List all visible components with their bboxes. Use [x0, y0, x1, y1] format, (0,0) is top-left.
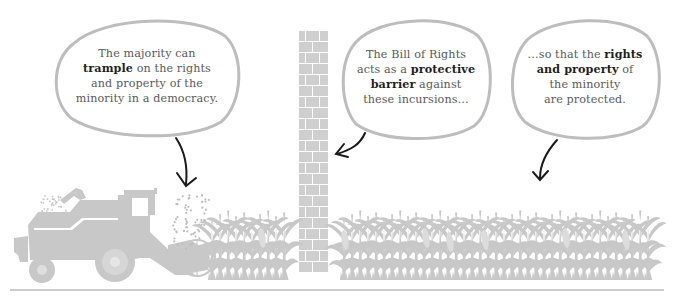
- brick-wall-icon: [299, 31, 328, 272]
- hand-drawn-arrow-icon: [176, 138, 196, 186]
- bubble-text-segment: The Bill of Rights: [366, 48, 466, 61]
- bubble-text-segment: are protected.: [544, 93, 626, 106]
- speech-bubble-protected: …so that the rightsand property ofthe mi…: [509, 14, 661, 140]
- speech-bubble-majority: The majority cantrample on the rightsand…: [53, 14, 241, 138]
- emphasis-text: rights: [604, 47, 642, 61]
- combine-harvester-icon: [14, 188, 215, 283]
- emphasis-text: and property: [537, 62, 619, 76]
- bubble-text-segment: of: [619, 63, 634, 76]
- speech-bubble-bill-of-rights: The Bill of Rightsacts as a protectiveba…: [340, 14, 492, 140]
- bubble-text-segment: these incursions…: [363, 93, 469, 106]
- bubble-text-protected: …so that the rightsand property ofthe mi…: [528, 47, 643, 107]
- bubble-text-segment: on the rights: [133, 62, 211, 75]
- bubble-text-segment: minority in a democracy.: [76, 92, 218, 105]
- corn-field-right: [324, 211, 667, 280]
- bubble-text-segment: The majority can: [98, 47, 195, 60]
- emphasis-text: barrier: [371, 77, 416, 91]
- bubble-text-segment: and property of the: [91, 77, 203, 90]
- emphasis-text: trample: [83, 61, 133, 75]
- bubble-text-majority: The majority cantrample on the rightsand…: [76, 46, 218, 106]
- bubble-text-segment: acts as a: [357, 63, 411, 76]
- bubble-text-bill-of-rights: The Bill of Rightsacts as a protectiveba…: [357, 47, 475, 107]
- bubble-text-segment: …so that the: [528, 48, 605, 61]
- bubble-text-segment: the minority: [550, 78, 621, 91]
- illustration: The majority cantrample on the rightsand…: [0, 0, 678, 302]
- hand-drawn-arrow-icon: [533, 140, 557, 180]
- emphasis-text: protective: [411, 62, 475, 76]
- bubble-text-segment: against: [415, 78, 461, 91]
